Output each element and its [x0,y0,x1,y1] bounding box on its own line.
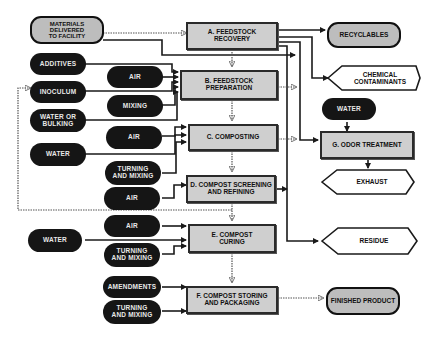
output-exhaust: EXHAUST [337,170,407,194]
output-exhaust-label: EXHAUST [356,178,387,185]
output-residue-label: RESIDUE [360,237,389,244]
output-chemical-contaminants: CHEMICAL CONTAMINANTS [342,66,418,90]
composting-process-diagram: MATERIALS DELIVERED TO FACILITY A. FEEDS… [0,0,434,340]
output-residue: RESIDUE [338,228,410,254]
output-chemical-contaminants-label: CHEMICAL CONTAMINANTS [354,71,406,85]
